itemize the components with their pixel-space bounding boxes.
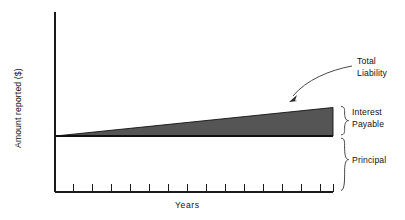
interest-payable-label-line1: Interest bbox=[352, 107, 382, 117]
interest-payable-brace-icon bbox=[341, 107, 349, 135]
interest-payable-wedge bbox=[56, 108, 334, 137]
y-axis-label: Amount reported ($) bbox=[13, 68, 23, 148]
callout-leader-line bbox=[293, 66, 352, 96]
x-axis-ticks bbox=[73, 184, 333, 192]
principal-brace-icon bbox=[341, 138, 349, 190]
liability-growth-chart: Amount reported ($) Years Total Liabilit… bbox=[0, 0, 405, 220]
x-axis-label: Years bbox=[175, 200, 200, 210]
total-liability-label-line2: Liability bbox=[357, 68, 388, 78]
principal-label: Principal bbox=[352, 155, 386, 165]
figure-canvas: Amount reported ($) Years Total Liabilit… bbox=[0, 0, 405, 220]
total-liability-label-line1: Total bbox=[357, 56, 376, 66]
interest-payable-label-line2: Payable bbox=[352, 119, 384, 129]
